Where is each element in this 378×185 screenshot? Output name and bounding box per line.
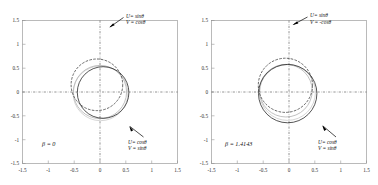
x-tick-label-5: 1 [150, 167, 153, 173]
x-tick-label-3: 0 [99, 167, 102, 173]
beta-label: β = 0 [41, 140, 56, 147]
annotation-bottom-line1: U= cosθ [318, 139, 337, 145]
x-tick-label-0: -1.5 [207, 167, 216, 173]
y-tick-label-0: 1.5 [13, 17, 20, 23]
annotation-bottom-line1: U= cosθ [128, 139, 147, 145]
annotation-bottom-line2: V = sinθ [318, 145, 337, 151]
y-tick-label-3: 0 [205, 89, 208, 95]
x-tick-label-6: 1.5 [363, 167, 370, 173]
annotation-top-line2: V = cosθ [126, 19, 146, 25]
figure-container: U= sinθ V = cosθ U= cosθ V = sinθ β = 0 … [0, 0, 378, 185]
y-tick-label-4: -0.5 [200, 113, 209, 119]
plot-panel-left: U= sinθ V = cosθ U= cosθ V = sinθ β = 0 … [0, 0, 189, 185]
annotation-arrow-bottom [322, 125, 336, 137]
y-tick-label-0: 1.5 [202, 17, 209, 23]
annotation-top-line1: U= sinθ [310, 12, 328, 18]
y-tick-label-1: 1 [205, 41, 208, 47]
x-tick-label-6: 1.5 [174, 167, 181, 173]
x-tick-label-0: -1.5 [18, 167, 27, 173]
x-tick-label-4: 0.5 [123, 167, 130, 173]
beta-label: β = 1.4143 [224, 140, 252, 147]
curve-u-cos-v-sin [259, 64, 317, 122]
y-tick-label-4: -0.5 [11, 113, 20, 119]
x-tick-label-1: -1 [235, 167, 240, 173]
y-tick-label-1: 1 [16, 41, 19, 47]
annotation-top-line1: U= sinθ [126, 13, 144, 19]
annotation-bottom-line2: V = sinθ [128, 145, 147, 151]
plot-svg-left: U= sinθ V = cosθ U= cosθ V = sinθ β = 0 … [0, 0, 189, 185]
x-tick-label-5: 1 [339, 167, 342, 173]
x-tick-label-2: -0.5 [70, 167, 79, 173]
plot-panel-right: U= sinθ V = -cosθ U= cosθ V = sinθ β = 1… [189, 0, 378, 185]
x-tick-label-1: -1 [46, 167, 51, 173]
y-tick-label-5: -1 [15, 137, 20, 143]
plot-svg-right: U= sinθ V = -cosθ U= cosθ V = sinθ β = 1… [189, 0, 378, 185]
y-tick-label-3: 0 [16, 89, 19, 95]
annotation-arrow-top [293, 17, 308, 25]
y-tick-label-6: -1.5 [11, 160, 20, 166]
x-tick-label-3: 0 [288, 167, 291, 173]
x-tick-label-4: 0.5 [312, 167, 319, 173]
annotation-arrow-bottom [129, 126, 143, 137]
y-tick-label-2: 0.5 [202, 65, 209, 71]
x-tick-label-2: -0.5 [259, 167, 268, 173]
curve-u-sin-v-neg-cos [258, 58, 312, 112]
annotation-arrow-top [109, 18, 123, 28]
y-tick-label-5: -1 [204, 137, 209, 143]
y-tick-label-6: -1.5 [200, 160, 209, 166]
annotation-top-line2: V = -cosθ [310, 19, 332, 25]
y-tick-label-2: 0.5 [13, 65, 20, 71]
